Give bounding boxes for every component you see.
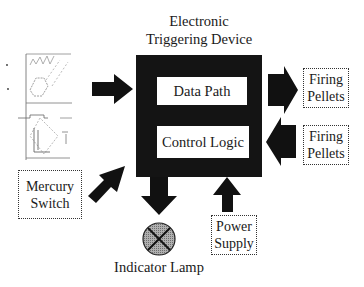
arrow-down-icon xyxy=(141,177,177,215)
arrow-up-right-icon xyxy=(88,166,125,203)
power-supply-box: Power Supply xyxy=(211,215,257,255)
lamp-x-circle-icon xyxy=(143,223,175,255)
firing-pellets-label-line-1: Firing xyxy=(309,128,343,145)
arrow-right-icon xyxy=(92,74,133,104)
firing-pellets-box-bottom: Firing Pellets xyxy=(303,125,349,165)
arrow-up-icon xyxy=(213,177,241,212)
power-supply-label-line-2: Supply xyxy=(214,235,254,252)
mercury-switch-label-line-1: Mercury xyxy=(26,178,74,195)
mercury-switch-label-line-2: Switch xyxy=(31,195,70,212)
mercury-switch-box: Mercury Switch xyxy=(18,170,82,219)
firing-pellets-label-line-2: Pellets xyxy=(307,145,344,162)
arrow-left-icon xyxy=(266,117,296,166)
indicator-lamp-label: Indicator Lamp xyxy=(108,259,210,276)
waveform-plot-icon xyxy=(6,54,72,160)
power-supply-label-line-1: Power xyxy=(216,218,252,235)
firing-pellets-label-line-1: Firing xyxy=(309,71,343,88)
arrow-right-icon xyxy=(268,66,298,114)
firing-pellets-box-top: Firing Pellets xyxy=(303,68,349,108)
firing-pellets-label-line-2: Pellets xyxy=(307,88,344,105)
